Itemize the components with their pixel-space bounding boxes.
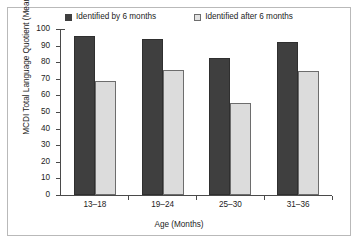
bars-layer: 13–1819–2425–3031–36: [61, 30, 332, 195]
y-axis-title: MCDI Total Language Quotient (Mean): [22, 0, 31, 145]
y-tick: 70: [56, 79, 60, 80]
bar-group: 31–36: [264, 30, 332, 195]
x-tick-label: 13–18: [61, 200, 129, 209]
y-tick-label: 100: [36, 24, 50, 33]
bar-identified-after-6-months[interactable]: [163, 70, 184, 195]
y-tick: 50: [56, 112, 60, 113]
bar-identified-after-6-months[interactable]: [95, 81, 116, 195]
x-tick-label: 31–36: [264, 200, 332, 209]
y-tick-label: 90: [41, 41, 50, 50]
y-tick: 0: [56, 195, 60, 196]
y-tick: 60: [56, 95, 60, 96]
bar-identified-by-6-months[interactable]: [142, 39, 163, 195]
y-tick: 90: [56, 46, 60, 47]
y-tick-label: 30: [41, 140, 50, 149]
legend-entry-identified-by-6-months: Identified by 6 months: [65, 13, 156, 21]
y-tick-label: 0: [45, 190, 50, 199]
x-axis-title: Age (Months): [8, 220, 350, 229]
x-tick-label: 19–24: [129, 200, 197, 209]
bar-identified-after-6-months[interactable]: [298, 71, 319, 195]
legend-swatch-light: [194, 14, 201, 21]
y-tick: 80: [56, 62, 60, 63]
y-tick-label: 50: [41, 107, 50, 116]
y-tick-label: 70: [41, 74, 50, 83]
chart-legend: Identified by 6 months Identified after …: [8, 13, 350, 21]
y-tick: 10: [56, 178, 60, 179]
legend-entry-identified-after-6-months: Identified after 6 months: [194, 13, 293, 21]
bar-group: 25–30: [197, 30, 265, 195]
y-tick-label: 60: [41, 90, 50, 99]
y-tick: 30: [56, 145, 60, 146]
bar-identified-by-6-months[interactable]: [277, 42, 298, 195]
legend-swatch-dark: [65, 14, 72, 21]
legend-label-identified-after-6-months: Identified after 6 months: [205, 13, 293, 21]
bar-identified-after-6-months[interactable]: [230, 103, 251, 195]
plot-area: 0102030405060708090100 13–1819–2425–3031…: [60, 30, 332, 196]
x-tick: [332, 196, 333, 200]
y-tick-label: 20: [41, 157, 50, 166]
figure-frame: Identified by 6 months Identified after …: [7, 7, 351, 236]
y-tick-label: 40: [41, 124, 50, 133]
y-tick: 20: [56, 162, 60, 163]
bar-group: 13–18: [61, 30, 129, 195]
y-tick: 40: [56, 129, 60, 130]
bar-group: 19–24: [129, 30, 197, 195]
bar-identified-by-6-months[interactable]: [74, 36, 95, 195]
y-tick-label: 80: [41, 57, 50, 66]
bar-identified-by-6-months[interactable]: [209, 58, 230, 195]
y-tick-label: 10: [41, 173, 50, 182]
legend-label-identified-by-6-months: Identified by 6 months: [76, 13, 156, 21]
x-tick-label: 25–30: [197, 200, 265, 209]
